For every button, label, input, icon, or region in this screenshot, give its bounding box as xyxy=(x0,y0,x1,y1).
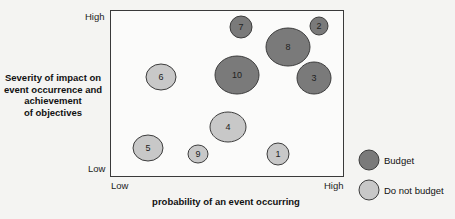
svg-text:5: 5 xyxy=(145,143,150,153)
legend-label-do-not-budget: Do not budget xyxy=(384,185,444,196)
bubble-7: 7 xyxy=(230,16,252,38)
bubble-3: 3 xyxy=(297,62,331,94)
svg-text:9: 9 xyxy=(195,149,200,159)
legend-swatch-budget xyxy=(359,150,379,170)
legend-label-budget: Budget xyxy=(384,155,414,166)
svg-text:1: 1 xyxy=(275,149,280,159)
svg-text:4: 4 xyxy=(225,122,230,132)
legend-swatch-do-not-budget xyxy=(359,180,379,200)
bubble-8: 8 xyxy=(266,28,310,66)
svg-text:7: 7 xyxy=(238,22,243,32)
bubble-1: 1 xyxy=(267,143,289,165)
chart-figure: High Low Low High Severity of impact on … xyxy=(0,0,455,219)
svg-text:10: 10 xyxy=(232,70,242,80)
bubble-9: 9 xyxy=(188,145,208,163)
svg-text:2: 2 xyxy=(316,21,321,31)
svg-text:8: 8 xyxy=(285,42,290,52)
bubble-4: 4 xyxy=(210,112,246,142)
bubble-5: 5 xyxy=(133,135,163,161)
bubble-6: 6 xyxy=(146,64,176,90)
svg-text:6: 6 xyxy=(158,72,163,82)
bubble-2: 2 xyxy=(310,17,328,35)
bubble-10: 10 xyxy=(215,56,259,94)
svg-text:3: 3 xyxy=(311,73,316,83)
